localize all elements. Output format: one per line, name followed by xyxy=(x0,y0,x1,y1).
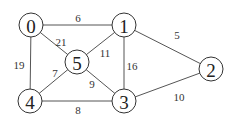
node-2: 2 xyxy=(199,57,223,81)
node-5: 5 xyxy=(65,50,89,74)
node-label: 3 xyxy=(119,92,129,113)
edge-weight-label: 10 xyxy=(174,91,186,103)
node-label: 2 xyxy=(206,60,216,81)
node-label: 1 xyxy=(119,16,129,37)
weighted-graph-diagram: 621191116579810 012345 xyxy=(0,0,237,121)
edge-weight-label: 16 xyxy=(127,60,139,72)
edge-line xyxy=(124,69,211,101)
node-4: 4 xyxy=(18,89,42,113)
node-label: 5 xyxy=(72,53,82,74)
edge-weight-label: 6 xyxy=(75,12,81,24)
edge-weight-label: 19 xyxy=(14,59,26,71)
edge-4-3: 8 xyxy=(30,101,124,116)
node-label: 4 xyxy=(25,92,35,113)
edge-weight-label: 9 xyxy=(89,78,95,90)
edge-weight-label: 21 xyxy=(56,36,67,48)
edge-0-1: 6 xyxy=(31,12,124,25)
edge-weight-label: 7 xyxy=(52,67,58,79)
node-1: 1 xyxy=(112,13,136,37)
node-3: 3 xyxy=(112,89,136,113)
edge-3-2: 10 xyxy=(124,69,211,103)
node-label: 0 xyxy=(26,16,36,37)
node-0: 0 xyxy=(19,13,43,37)
edge-weight-label: 11 xyxy=(100,47,111,59)
edge-weight-label: 5 xyxy=(174,29,180,41)
edge-weight-label: 8 xyxy=(75,104,81,116)
